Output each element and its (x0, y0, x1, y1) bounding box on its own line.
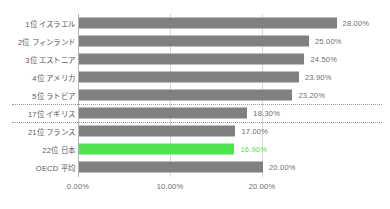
bar-row: 4位 アメリカ23.90% (0, 68, 390, 85)
bar[interactable] (79, 53, 304, 64)
bar[interactable] (79, 126, 235, 137)
bar-value-label: 25.00% (315, 36, 342, 45)
bar-chart: 1位 イスラエル28.00%2位 フィンランド25.00%3位 エストニア24.… (0, 0, 390, 209)
bar-value-label: 16.90% (240, 145, 267, 154)
bar-value-label: 20.00% (269, 163, 296, 172)
bar-row-label: 17位 イギリス (28, 108, 75, 119)
bar-row: 5位 ラトビア23.20% (0, 86, 390, 103)
bar-row: OECD 平均20.00% (0, 159, 390, 176)
bar-value-label: 18.30% (253, 109, 280, 118)
bar-row: 22位 日本16.90% (0, 141, 390, 158)
bar[interactable] (79, 17, 337, 28)
bar-value-label: 28.00% (343, 18, 370, 27)
x-axis-tick-label: 10.00% (157, 182, 184, 191)
bar-row: 3位 エストニア24.50% (0, 50, 390, 67)
bar-row: 17位 イギリス18.30% (0, 105, 390, 122)
bar-value-label: 23.20% (298, 90, 325, 99)
bar-row-label: 4位 アメリカ (32, 71, 75, 82)
bar[interactable] (79, 89, 292, 100)
x-axis-tick-label: 0.00% (67, 182, 89, 191)
bar-value-label: 23.90% (305, 72, 332, 81)
bar[interactable] (79, 108, 247, 119)
bar-value-label: 24.50% (310, 54, 337, 63)
row-separator-lower (12, 122, 382, 123)
bar-row-label: 3位 エストニア (25, 53, 75, 64)
bar-row-label: 1位 イスラエル (25, 17, 75, 28)
bar[interactable] (79, 35, 309, 46)
bar-row-label: 21位 フランス (28, 126, 75, 137)
bar-row-label: 22位 日本 (42, 144, 75, 155)
bar[interactable] (79, 71, 299, 82)
bar-row: 2位 フィンランド25.00% (0, 32, 390, 49)
bar-row-label: 5位 ラトビア (32, 89, 75, 100)
bar-row: 21位 フランス17.00% (0, 123, 390, 140)
bar-highlighted[interactable] (79, 144, 234, 155)
bar[interactable] (79, 162, 263, 173)
row-separator-upper (12, 104, 382, 105)
x-axis-tick-label: 20.00% (249, 182, 276, 191)
bar-row: 1位 イスラエル28.00% (0, 14, 390, 31)
plot-area: 1位 イスラエル28.00%2位 フィンランド25.00%3位 エストニア24.… (0, 0, 390, 209)
bar-row-label: 2位 フィンランド (18, 35, 75, 46)
bar-value-label: 17.00% (241, 127, 268, 136)
bar-row-label: OECD 平均 (36, 162, 75, 173)
